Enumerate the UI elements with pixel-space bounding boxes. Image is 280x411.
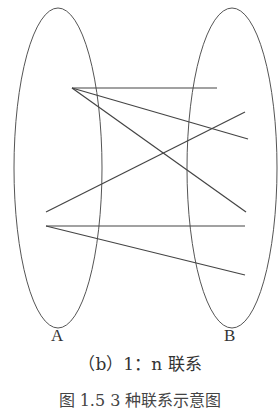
- sub-caption: （b）1：n 联系: [0, 350, 280, 375]
- edge: [72, 88, 248, 139]
- set-b-ellipse: [187, 8, 277, 328]
- edge: [46, 112, 245, 212]
- edge: [72, 88, 246, 212]
- figure-caption: 图 1.5 3 种联系示意图: [0, 387, 280, 411]
- edge: [46, 226, 245, 275]
- edges: [46, 88, 248, 275]
- set-a-label: A: [51, 326, 63, 346]
- set-a-ellipse: [14, 8, 102, 328]
- set-b-label: B: [224, 326, 235, 346]
